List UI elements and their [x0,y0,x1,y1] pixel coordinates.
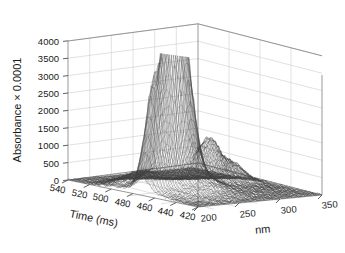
x-tick-label: 480 [114,196,132,210]
x-tick-label: 440 [157,205,175,219]
x-tick-label: 540 [49,182,67,196]
x-tick-label: 500 [92,191,110,205]
z-tick-label: 4000 [38,36,59,47]
x-axis-title: Time (ms) [69,207,120,229]
y-tick-label: 300 [280,203,297,215]
z-axis-title: Absorbance × 0.0001 [11,58,23,163]
z-axis-tick-labels: 0 500 1000 1500 2000 2500 3000 3500 4000 [38,36,59,186]
surface-plot-figure: 0 500 1000 1500 2000 2500 3000 3500 4000… [0,0,345,253]
z-tick-label: 1000 [38,140,59,151]
z-tick-label: 1500 [38,123,59,134]
z-tick-label: 3500 [38,53,59,64]
y-tick-label: 250 [239,207,256,219]
z-axis-ticks [63,41,68,181]
z-tick-label: 500 [43,158,59,169]
z-tick-label: 3000 [38,71,59,82]
y-axis-title: nm [254,222,270,235]
y-tick-label: 350 [321,198,338,210]
y-tick-label: 200 [200,211,217,223]
plot-canvas: 0 500 1000 1500 2000 2500 3000 3500 4000… [0,0,345,253]
x-tick-label: 520 [71,187,89,201]
x-tick-label: 460 [136,200,154,214]
z-tick-label: 2000 [38,105,59,116]
z-tick-label: 2500 [38,88,59,99]
x-tick-label: 420 [179,209,197,223]
mesh-surface [68,0,322,207]
